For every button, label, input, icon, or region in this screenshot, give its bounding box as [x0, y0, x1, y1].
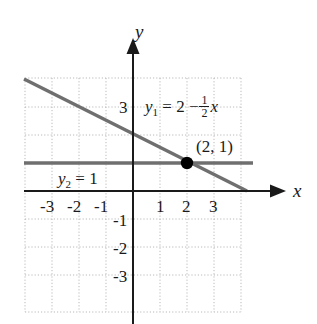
y1-x-variable: x: [210, 97, 218, 116]
one-half-fraction: 12: [199, 94, 209, 120]
graph-figure: y x -3 -2 -1 1 2 3 3 -1 -2 -3 y1 = 2 −12…: [0, 0, 317, 324]
y-axis: [127, 38, 140, 324]
x-tick--1: -1: [94, 198, 108, 215]
x-tick-1: 1: [156, 198, 165, 215]
coordinate-plane-svg: [0, 0, 317, 324]
intersection-point-marker: [181, 157, 193, 169]
x-tick-3: 3: [209, 198, 218, 215]
y1-var: y: [145, 97, 153, 116]
y-axis-label: y: [135, 22, 143, 41]
y-tick--2: -2: [113, 240, 127, 257]
y1-constant: 2: [176, 97, 185, 116]
x-axis-label: x: [293, 181, 301, 200]
fraction-denominator: 2: [199, 106, 209, 119]
x-tick--2: -2: [67, 198, 81, 215]
y2-equals-value: = 1: [75, 169, 97, 188]
line-y1-equation-label: y1 = 2 −12x: [145, 94, 218, 120]
y1-minus: −: [189, 97, 199, 116]
x-tick-2: 2: [182, 198, 191, 215]
line-y2-equation-label: y2 = 1: [58, 170, 98, 190]
intersection-point-label: (2, 1): [196, 138, 233, 155]
y-tick--3: -3: [113, 268, 127, 285]
fraction-numerator: 1: [199, 94, 209, 106]
y-tick-3: 3: [119, 99, 128, 116]
y1-equals: =: [162, 97, 172, 116]
y2-subscript: 2: [66, 178, 72, 190]
y2-var: y: [58, 169, 66, 188]
x-tick--3: -3: [40, 198, 54, 215]
y1-subscript: 1: [153, 106, 159, 118]
y-tick--1: -1: [113, 212, 127, 229]
